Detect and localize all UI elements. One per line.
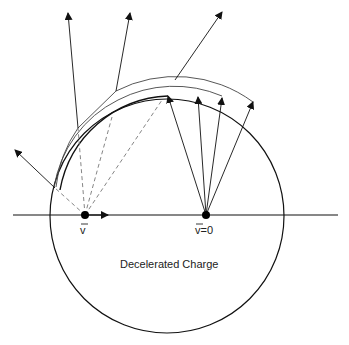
caption: Decelerated Charge bbox=[120, 258, 218, 270]
decelerated-charge-diagram: v v=0 Decelerated Charge bbox=[0, 0, 349, 345]
stopped-charge-label: v=0 bbox=[195, 224, 213, 236]
moving-charge-label: v bbox=[80, 224, 86, 236]
stopped-charge bbox=[202, 211, 210, 219]
moving-charge bbox=[81, 211, 89, 219]
static-field-arrows bbox=[168, 96, 253, 215]
